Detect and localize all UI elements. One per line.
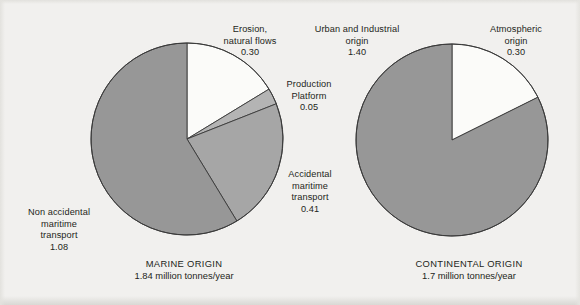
continental-origin-caption: CONTINENTAL ORIGIN 1.7 million tonnes/ye… [386,258,552,283]
callout-urban-value: 1.40 [298,47,416,58]
marine-origin-caption: MARINE ORIGIN 1.84 million tonnes/year [104,258,264,283]
continental-origin-caption-subtitle: 1.7 million tonnes/year [386,270,552,282]
callout-erosion-label: Erosion, natural flows [224,24,277,45]
continental-origin-caption-title: CONTINENTAL ORIGIN [386,258,552,270]
callout-atmospheric-origin: Atmospheric origin 0.30 [472,13,560,70]
callout-erosion-natural-flows: Erosion, natural flows 0.30 [203,13,297,70]
callout-urban-and-industrial-origin: Urban and Industrial origin 1.40 [298,13,416,70]
marine-origin-panel: Erosion, natural flows 0.30 Production P… [0,0,290,305]
callout-non-accidental-value: 1.08 [8,242,110,253]
callout-erosion-value: 0.30 [203,47,297,58]
callout-urban-label: Urban and Industrial origin [315,24,400,45]
oil-pollution-sources-figure: Erosion, natural flows 0.30 Production P… [0,0,580,305]
marine-origin-caption-subtitle: 1.84 million tonnes/year [104,270,264,282]
callout-non-accidental-label: Non accidental maritime transport [28,207,90,240]
callout-atmospheric-value: 0.30 [472,47,560,58]
marine-origin-caption-title: MARINE ORIGIN [104,258,264,270]
callout-atmospheric-label: Atmospheric origin [490,24,542,45]
callout-non-accidental-maritime-transport: Non accidental maritime transport 1.08 [8,196,110,264]
